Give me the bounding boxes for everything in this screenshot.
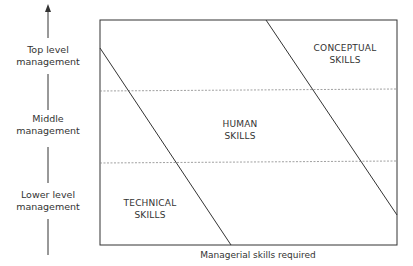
level-lower-line2: management	[8, 201, 88, 213]
divider-middle-lower	[100, 161, 397, 163]
x-axis-label: Managerial skills required	[188, 250, 328, 260]
region-technical-skills: TECHNICAL SKILLS	[110, 197, 190, 221]
region-conceptual-skills: CONCEPTUAL SKILLS	[300, 42, 390, 66]
level-middle: Middle management	[8, 113, 88, 137]
region-technical-line1: TECHNICAL	[110, 197, 190, 209]
region-conceptual-line2: SKILLS	[300, 54, 390, 66]
level-lower: Lower level management	[8, 189, 88, 213]
region-human-line1: HUMAN	[200, 118, 280, 130]
level-middle-line1: Middle	[8, 113, 88, 125]
region-technical-line2: SKILLS	[110, 209, 190, 221]
level-middle-line2: management	[8, 125, 88, 137]
level-lower-line1: Lower level	[8, 189, 88, 201]
level-top: Top level management	[8, 44, 88, 68]
up-arrow-icon	[45, 4, 51, 12]
region-conceptual-line1: CONCEPTUAL	[300, 42, 390, 54]
divider-top-middle	[100, 89, 397, 91]
region-human-line2: SKILLS	[200, 130, 280, 142]
level-top-line1: Top level	[8, 44, 88, 56]
level-top-line2: management	[8, 56, 88, 68]
region-human-skills: HUMAN SKILLS	[200, 118, 280, 142]
